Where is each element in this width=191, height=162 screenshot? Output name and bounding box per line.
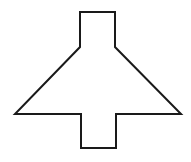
- polygon-diagram: [0, 0, 191, 162]
- diagram-canvas: [0, 0, 191, 162]
- polygon-outline: [15, 12, 181, 148]
